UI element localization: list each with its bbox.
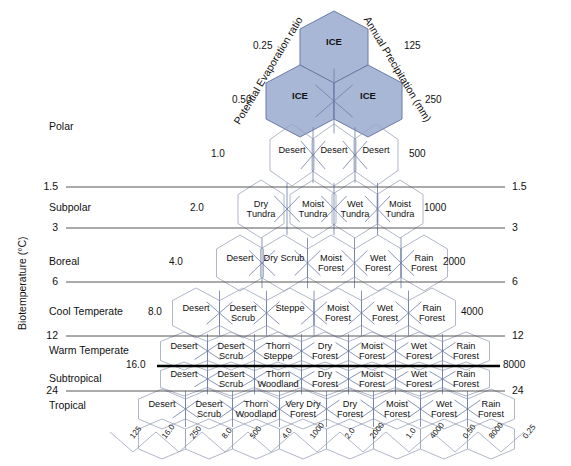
life-zone-cell: Thorn Woodland [236,399,277,419]
life-zone-cell: Dry Tundra [241,199,281,219]
holdridge-diagram: ICEICEICEDesertDesertDesertDry TundraMoi… [0,0,571,466]
temperature-tick-label-right: 12 [512,329,524,341]
latitudinal-region-label: Warm Temperate [49,344,129,356]
precipitation-label: 250 [425,94,442,105]
life-zone-cell: Moist Forest [352,341,393,361]
y-axis-title: Biotemperature (°C) [16,237,28,330]
life-zone-cell: Dry Forest [330,399,371,419]
life-zone-cell: Desert Scrub [223,303,264,323]
latitudinal-region-label: Tropical [49,399,86,411]
latitudinal-region-label: Subpolar [49,201,91,213]
pet-ratio-label: 16.0 [126,359,145,370]
temperature-tick-label: 6 [52,275,58,287]
life-zone-cell: Rain Forest [446,341,487,361]
temperature-tick-label-right: 24 [512,384,524,396]
temperature-tick-label-right: 1.5 [512,180,527,192]
temperature-tick-label-right: 6 [512,275,518,287]
life-zone-cell: Rain Forest [446,369,487,389]
life-zone-cell: ICE [337,91,399,101]
life-zone-cell: Desert [176,303,217,313]
life-zone-cell: Steppe [270,303,311,313]
life-zone-cell: Thorn Steppe [258,341,299,361]
pet-ratio-label: 4.0 [169,256,183,267]
pet-ratio-label: 8.0 [148,306,162,317]
life-zone-cell: Desert Scrub [189,399,230,419]
life-zone-cell: Desert [164,341,205,351]
life-zone-cell: Desert Scrub [211,341,252,361]
precipitation-label: 500 [409,148,426,159]
life-zone-cell: Moist Forest [311,253,352,273]
temperature-tick-label: 1.5 [43,180,58,192]
temperature-tick-label: 24 [46,384,58,396]
life-zone-cell: Moist Tundra [293,199,333,219]
life-zone-cell: Wet Forest [424,399,465,419]
life-zone-cell: Wet Forest [399,341,440,361]
life-zone-cell: Moist Tundra [380,199,420,219]
life-zone-cell: Moist Forest [352,369,393,389]
latitudinal-region-label: Cool Temperate [49,305,123,317]
life-zone-cell: Desert [315,145,353,155]
pet-ratio-label: 0.25 [253,40,272,51]
life-zone-cell: Desert Scrub [211,369,252,389]
life-zone-cell: Dry Scrub [264,253,305,263]
life-zone-cell: Rain Forest [404,253,445,273]
latitudinal-region-label: Boreal [49,255,79,267]
pet-ratio-label: 1.0 [211,148,225,159]
precipitation-label: 2000 [443,256,465,267]
temperature-tick-label: 3 [52,221,58,233]
diagram-graphics [0,0,571,466]
precipitation-label: 1000 [424,202,446,213]
life-zone-cell: Rain Forest [412,303,453,323]
life-zone-cell: Desert [273,145,311,155]
life-zone-cell: Moist Forest [377,399,418,419]
life-zone-cell: Desert [142,399,183,409]
life-zone-cell: Very Dry Forest [283,399,324,419]
temperature-tick-label-right: 3 [512,221,518,233]
life-zone-cell: ICE [269,91,331,101]
life-zone-cell: Wet Forest [365,303,406,323]
pet-ratio-label: 2.0 [190,202,204,213]
life-zone-cell: Wet Forest [358,253,399,273]
life-zone-cell: Desert [220,253,261,263]
precipitation-label: 8000 [503,359,525,370]
life-zone-cell: Rain Forest [471,399,512,419]
temperature-tick-label: 12 [46,329,58,341]
life-zone-cell: Desert [357,145,395,155]
life-zone-cell: Desert [164,369,205,379]
precipitation-label: 4000 [461,306,483,317]
life-zone-cell: Thorn Woodland [258,369,299,389]
latitudinal-region-label: Subtropical [49,372,102,384]
life-zone-cell: Dry Forest [305,369,346,389]
life-zone-cell: ICE [303,37,365,47]
life-zone-cell: Moist Forest [318,303,359,323]
life-zone-cell: Wet Forest [399,369,440,389]
precipitation-label: 125 [404,40,421,51]
life-zone-cell: Dry Forest [305,341,346,361]
latitudinal-region-label: Polar [49,120,74,132]
life-zone-cell: Wet Tundra [335,199,375,219]
